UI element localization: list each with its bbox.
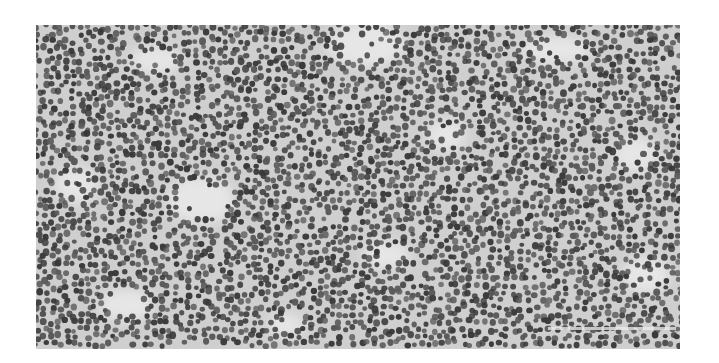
scale-bar bbox=[548, 327, 676, 330]
histology-micrograph bbox=[36, 25, 680, 349]
image-canvas bbox=[0, 0, 719, 363]
lymphocyte-tissue-texture bbox=[36, 25, 680, 349]
